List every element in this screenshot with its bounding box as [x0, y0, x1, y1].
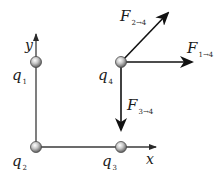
- charge-label-q1: q1: [12, 68, 27, 86]
- charge-q3-sphere: [116, 142, 127, 153]
- force-label-F3to4: F3→4: [127, 98, 153, 116]
- force-label-F2to4: F2→4: [120, 9, 146, 27]
- charge-q1-sphere: [31, 57, 42, 68]
- y-axis-label: y: [25, 38, 33, 52]
- charge-label-q3: q3: [102, 154, 117, 172]
- charge-label-q4: q4: [98, 68, 113, 86]
- x-axis-label: x: [146, 152, 154, 166]
- force-label-F1to4: F1→4: [187, 41, 213, 59]
- charge-label-q2: q2: [12, 154, 27, 172]
- force-diagram: y x q1 q2 q3 q4 F2→4 F1→4 F3→4: [0, 0, 222, 181]
- charge-q2-sphere: [31, 142, 42, 153]
- charge-q4-sphere: [116, 57, 127, 68]
